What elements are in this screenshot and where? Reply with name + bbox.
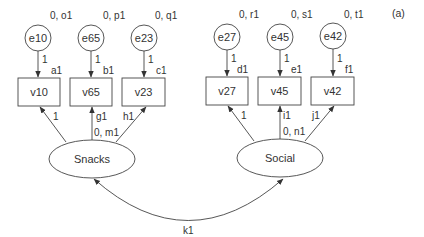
loading-label-v65: g1 [96, 111, 108, 122]
observed-label: v42 [324, 85, 342, 97]
intercept-label: a1 [51, 65, 63, 76]
intercept-label: f1 [345, 64, 354, 75]
latent-social: Social [237, 139, 323, 177]
error-term-e23: e23 0, q1 1 [131, 10, 178, 77]
error-label: e27 [218, 31, 236, 43]
snacks-loadings: 1 g1 h1 0, m1 [40, 107, 146, 142]
error-path-label: 1 [337, 53, 343, 64]
error-path-label: 1 [42, 54, 48, 65]
sem-path-diagram: (a) e10 0, o1 1 e65 0, p1 1 e23 0, q1 1 … [0, 0, 424, 237]
panel-label: (a) [392, 7, 405, 19]
latent-label: Social [265, 152, 295, 164]
latent-snacks: Snacks [49, 140, 135, 178]
social-loadings: 1 i1 j1 0, n1 [228, 106, 334, 141]
intercept-label: b1 [103, 65, 115, 76]
error-params: 0, p1 [103, 10, 126, 21]
error-params: 0, r1 [239, 9, 259, 20]
loading-label-v42: j1 [311, 110, 320, 121]
intercept-label: c1 [156, 65, 167, 76]
loading-label-v10: 1 [53, 111, 59, 122]
error-term-e65: e65 0, p1 1 [78, 10, 126, 77]
observed-label: v10 [30, 86, 48, 98]
error-label: e45 [271, 31, 289, 43]
observed-v10: v10 a1 [18, 65, 63, 106]
loading-label-v27: 1 [241, 110, 247, 121]
covariance-curve [94, 179, 283, 221]
error-params: 0, o1 [50, 10, 73, 21]
covariance-label: k1 [183, 225, 194, 236]
error-label: e23 [135, 32, 153, 44]
observed-label: v45 [271, 85, 289, 97]
latent-label: Snacks [74, 153, 111, 165]
error-path-label: 1 [95, 54, 101, 65]
error-params: 0, q1 [155, 10, 178, 21]
observed-label: v27 [218, 85, 236, 97]
loading-label-v45: i1 [283, 110, 291, 121]
error-term-e10: e10 0, o1 1 [25, 10, 73, 77]
intercept-label: d1 [237, 64, 249, 75]
intercept-label: e1 [291, 64, 303, 75]
error-params: 0, s1 [291, 9, 313, 20]
error-path-label: 1 [284, 53, 290, 64]
error-label: e65 [82, 32, 100, 44]
covariance-snacks-social: k1 [94, 179, 283, 236]
observed-v23: v23 c1 [122, 65, 167, 106]
error-path-label: 1 [148, 54, 154, 65]
observed-label: v65 [82, 86, 100, 98]
loading-label-v23: h1 [123, 111, 135, 122]
error-path-label: 1 [231, 53, 237, 64]
error-term-e42: e42 0, t1 1 [320, 9, 364, 76]
observed-v65: v65 b1 [70, 65, 115, 106]
observed-label: v23 [135, 86, 153, 98]
error-label: e42 [324, 30, 342, 42]
error-label: e10 [29, 32, 47, 44]
latent-params: 0, n1 [283, 126, 306, 137]
latent-params: 0, m1 [94, 127, 119, 138]
error-params: 0, t1 [344, 9, 364, 20]
observed-v42: v42 f1 [311, 64, 354, 105]
